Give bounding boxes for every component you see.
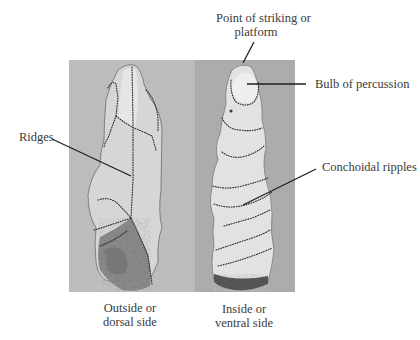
label-bulb-text: Bulb of percussion — [315, 77, 409, 91]
label-platform: Point of striking or platform — [216, 11, 296, 39]
flake-diagram: Point of striking or platform Bulb of pe… — [0, 0, 420, 340]
caption-ventral-line1: Inside or — [204, 302, 284, 316]
label-ripples-text: Conchoidal ripples — [322, 160, 417, 174]
caption-dorsal: Outside or dorsal side — [90, 301, 170, 329]
caption-ventral: Inside or ventral side — [204, 302, 284, 330]
label-platform-line2: platform — [216, 25, 296, 39]
label-conchoidal-ripples: Conchoidal ripples — [322, 160, 417, 174]
label-ridges: Ridges — [19, 130, 54, 144]
label-platform-line1: Point of striking or — [216, 11, 296, 25]
label-bulb-of-percussion: Bulb of percussion — [315, 77, 409, 91]
leader-platform — [243, 42, 254, 63]
caption-ventral-line2: ventral side — [204, 316, 284, 330]
label-ridges-text: Ridges — [19, 130, 54, 144]
caption-dorsal-line1: Outside or — [90, 301, 170, 315]
caption-dorsal-line2: dorsal side — [90, 315, 170, 329]
